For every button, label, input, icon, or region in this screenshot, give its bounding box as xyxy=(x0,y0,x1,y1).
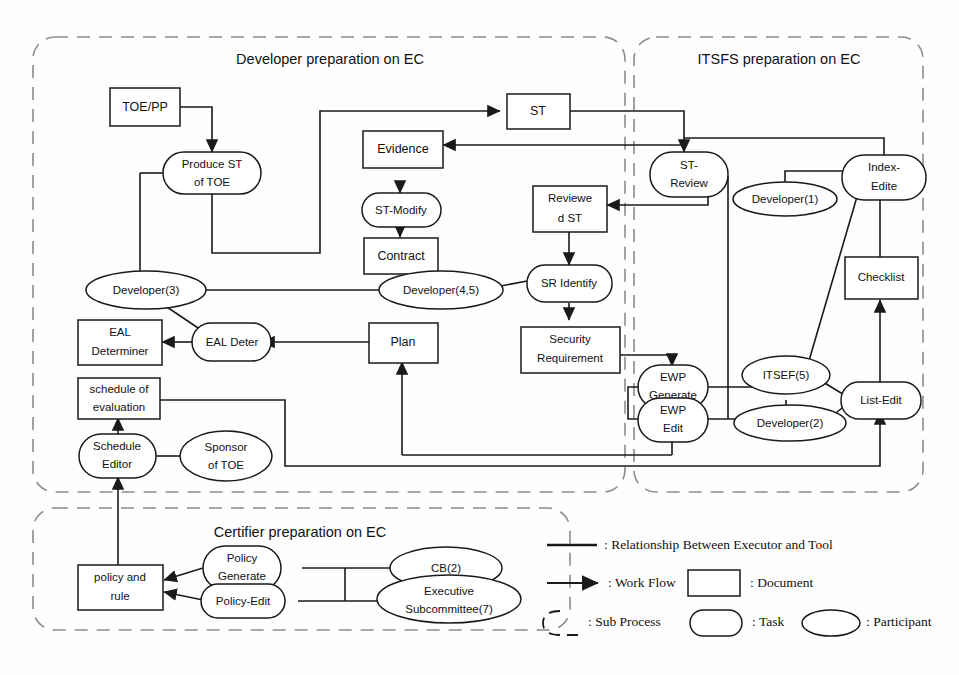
task-produce-st-of-toe[interactable]: Produce ST of TOE xyxy=(163,152,261,194)
document-schedeval-label-1: schedule of xyxy=(90,383,150,395)
participant-exec-label-2: Subcommittee(7) xyxy=(405,603,493,615)
participant-dev45-label: Developer(4,5) xyxy=(403,284,479,296)
document-checklist[interactable]: Checklist xyxy=(845,257,918,299)
document-schedeval-label-2: evaluation xyxy=(93,401,145,413)
flow-policyedit-policyrule xyxy=(164,592,203,600)
task-ewp-edit[interactable]: EWP Edit xyxy=(638,398,708,442)
flow-toepp-producest xyxy=(180,107,212,152)
task-ewpedit-label-1: EWP xyxy=(660,404,687,416)
document-contract-label: Contract xyxy=(377,249,425,263)
document-checklist-label: Checklist xyxy=(858,271,905,283)
task-schededitor-label-2: Editor xyxy=(102,458,132,470)
document-plan[interactable]: Plan xyxy=(369,323,438,363)
participant-itsef-5[interactable]: ITSEF(5) xyxy=(742,356,830,394)
participant-exec-label-1: Executive xyxy=(424,585,474,597)
document-reviewed-st[interactable]: Reviewe d ST xyxy=(533,186,607,232)
task-ealdeter-label: EAL Deter xyxy=(206,336,259,348)
task-sr-identify[interactable]: SR Identify xyxy=(527,265,612,302)
document-reviewed-st-label-1: Reviewe xyxy=(548,192,592,204)
participant-dev3-label: Developer(3) xyxy=(113,284,180,296)
group-title-certifier: Certifier preparation on EC xyxy=(214,524,386,540)
document-secreq-label-2: Requirement xyxy=(537,352,604,364)
participant-dev1-label: Developer(1) xyxy=(752,193,819,205)
document-security-requirement[interactable]: Security Requirement xyxy=(521,327,620,373)
task-list-edit[interactable]: List-Edit xyxy=(841,382,921,419)
task-policygenerate-label-1: Policy xyxy=(227,552,258,564)
legend: : Relationship Between Executor and Tool… xyxy=(543,537,932,636)
document-reviewed-st-label-2: d ST xyxy=(558,212,582,224)
participant-sponsor-label-1: Sponsor xyxy=(205,441,248,453)
participant-sponsor-label-2: of TOE xyxy=(208,459,244,471)
document-evidence-label: Evidence xyxy=(377,142,428,156)
task-eal-deter[interactable]: EAL Deter xyxy=(192,323,271,361)
task-ewpedit-label-2: Edit xyxy=(663,422,684,434)
legend-participant-label: : Participant xyxy=(866,614,932,629)
task-producest-label-1: Produce ST xyxy=(182,158,243,170)
task-sridentify-label: SR Identify xyxy=(541,277,597,289)
task-schedule-editor[interactable]: Schedule Editor xyxy=(79,434,156,478)
document-secreq-label-1: Security xyxy=(549,333,591,345)
document-policyrule-label-1: policy and xyxy=(94,571,146,583)
document-toepp-label: TOE/PP xyxy=(122,100,168,114)
task-streview-label-1: ST- xyxy=(680,159,698,171)
document-ealdeterminer-label-1: EAL xyxy=(109,326,131,338)
task-stmodify-label: ST-Modify xyxy=(375,204,427,216)
document-eal-determiner[interactable]: EAL Determiner xyxy=(78,320,162,365)
task-policyedit-label: Policy-Edit xyxy=(216,595,271,607)
task-ewpgenerate-label-1: EWP xyxy=(660,371,687,383)
task-policygenerate-label-2: Generate xyxy=(218,570,266,582)
flow-policygen-policyrule xyxy=(164,568,203,580)
participant-executive-subcommittee[interactable]: Executive Subcommittee(7) xyxy=(377,575,521,623)
document-st-label: ST xyxy=(530,104,546,118)
task-schededitor-label-1: Schedule xyxy=(93,440,141,452)
legend-participant-icon xyxy=(802,610,860,636)
participant-dev2-label: Developer(2) xyxy=(757,417,824,429)
task-policy-edit[interactable]: Policy-Edit xyxy=(201,584,285,618)
document-plan-label: Plan xyxy=(390,335,415,349)
document-st[interactable]: ST xyxy=(507,94,570,129)
legend-task-icon xyxy=(690,610,742,636)
participant-itsef5-label: ITSEF(5) xyxy=(763,369,810,381)
task-index-edite[interactable]: Index- Edite xyxy=(842,155,926,200)
task-st-review[interactable]: ST- Review xyxy=(650,152,728,197)
document-policy-and-rule[interactable]: policy and rule xyxy=(78,565,163,610)
legend-subprocess-label: : Sub Process xyxy=(588,614,661,629)
participant-developer-3[interactable]: Developer(3) xyxy=(86,271,206,309)
participant-developer-1[interactable]: Developer(1) xyxy=(733,182,837,216)
group-title-developer: Developer preparation on EC xyxy=(236,51,424,67)
participant-developer-2[interactable]: Developer(2) xyxy=(734,405,846,441)
legend-task-label: : Task xyxy=(752,614,784,629)
legend-document-icon xyxy=(688,570,740,596)
participant-developer-45[interactable]: Developer(4,5) xyxy=(379,271,503,309)
group-title-itsfs: ITSFS preparation on EC xyxy=(698,51,861,67)
task-streview-label-2: Review xyxy=(670,177,708,189)
document-ealdeterminer-label-2: Determiner xyxy=(92,345,149,357)
diagram-canvas: Developer preparation on EC ITSFS prepar… xyxy=(0,0,959,675)
legend-relationship-label: : Relationship Between Executor and Tool xyxy=(604,537,833,552)
document-contract[interactable]: Contract xyxy=(364,238,438,274)
participant-cb2-label: CB(2) xyxy=(431,562,461,574)
legend-workflow-label: : Work Flow xyxy=(608,575,676,590)
task-producest-label-2: of TOE xyxy=(194,176,230,188)
document-policyrule-label-2: rule xyxy=(110,590,129,602)
document-toepp[interactable]: TOE/PP xyxy=(110,88,180,126)
participant-sponsor-of-toe[interactable]: Sponsor of TOE xyxy=(180,431,272,481)
flow-st-streview xyxy=(570,111,684,152)
task-listedit-label: List-Edit xyxy=(860,394,902,406)
task-indexedite-label-2: Edite xyxy=(871,180,897,192)
task-st-modify[interactable]: ST-Modify xyxy=(362,193,441,227)
task-indexedite-label-1: Index- xyxy=(868,161,900,173)
legend-document-label: : Document xyxy=(750,575,814,590)
document-schedule-of-evaluation[interactable]: schedule of evaluation xyxy=(78,378,160,419)
document-evidence[interactable]: Evidence xyxy=(363,131,443,168)
